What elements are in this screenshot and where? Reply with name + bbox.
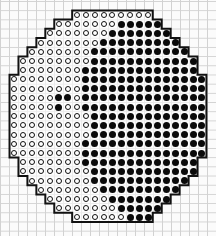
array-boundary-outline (0, 0, 216, 236)
